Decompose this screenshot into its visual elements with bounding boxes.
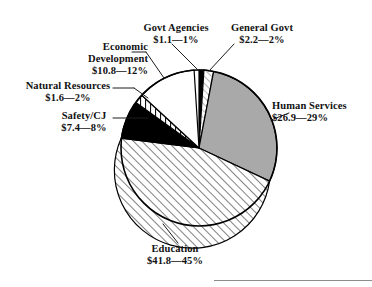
label-human-services-value: $26.9—29% xyxy=(272,112,370,124)
label-education-value: $41.8—45% xyxy=(120,255,230,267)
leader-line-govt-agencies xyxy=(172,44,198,70)
label-economic-development-name-line1: Economic xyxy=(44,41,148,53)
leader-line-general-govt xyxy=(209,44,234,71)
label-natural-resources: Natural Resources $1.6—2% xyxy=(4,80,132,104)
pie-chart-figure: Govt Agencies $1.1—1% General Govt $2.2—… xyxy=(0,0,372,287)
label-economic-development-name-line2: Development xyxy=(44,53,148,65)
label-general-govt-value: $2.2—2% xyxy=(216,34,308,46)
label-human-services-name: Human Services xyxy=(272,100,370,112)
label-natural-resources-value: $1.6—2% xyxy=(4,92,132,104)
label-education-name: Education xyxy=(120,243,230,255)
bottom-rule xyxy=(214,280,372,281)
label-safety-cj-name: Safety/CJ xyxy=(36,110,132,122)
label-govt-agencies-name: Govt Agencies xyxy=(128,22,224,34)
leader-line-economic-development xyxy=(146,52,164,78)
label-education: Education $41.8—45% xyxy=(120,243,230,267)
label-safety-cj-value: $7.4—8% xyxy=(36,122,132,134)
label-general-govt-name: General Govt xyxy=(216,22,308,34)
label-general-govt: General Govt $2.2—2% xyxy=(216,22,308,46)
label-safety-cj: Safety/CJ $7.4—8% xyxy=(36,110,132,134)
label-human-services: Human Services $26.9—29% xyxy=(272,100,370,124)
label-economic-development-value: $10.8—12% xyxy=(44,65,148,77)
label-natural-resources-name: Natural Resources xyxy=(4,80,132,92)
label-economic-development: Economic Development $10.8—12% xyxy=(44,41,148,78)
